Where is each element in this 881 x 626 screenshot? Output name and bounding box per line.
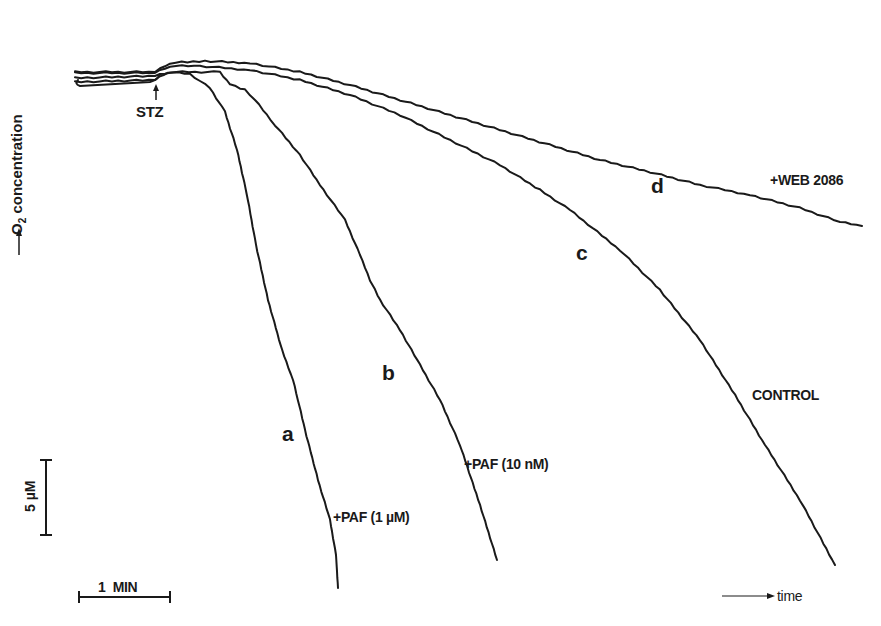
stz-arrow-head [153,84,159,91]
time-arrow-head [767,593,775,599]
curve-a-label: a [282,423,294,444]
scale-bar-horizontal-label: 1 MIN [98,580,137,594]
y-axis-label: O2 concentration [8,114,28,235]
oxygen-consumption-chart [0,0,881,626]
curve-c-label: c [576,242,588,263]
annotation-paf-10nm: +PAF (10 nM) [464,457,548,471]
stz-label: STZ [136,104,163,119]
curve-d-label: d [651,175,664,196]
curve-d [75,61,862,226]
curve-b [75,71,497,560]
curves-group [75,61,862,588]
annotation-web-2086: +WEB 2086 [770,173,843,187]
curve-b-label: b [382,362,395,383]
scale-bar-vertical-label: 5 µM [22,481,38,512]
annotation-paf-1um: +PAF (1 µM) [333,510,409,524]
time-axis-label: time [777,589,802,603]
curve-a [75,72,338,588]
scale-bar-vertical [40,460,52,535]
curve-c [75,65,835,565]
annotation-control: CONTROL [752,388,819,402]
